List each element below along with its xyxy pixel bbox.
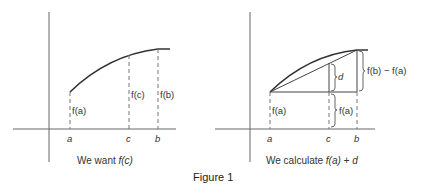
figure-caption: Figure 1 [193, 171, 233, 183]
left-tick-a: a [67, 133, 72, 144]
left-label-fb: f(b) [160, 89, 174, 100]
right-tick-b: b [354, 133, 359, 144]
left-label-fa: f(a) [72, 105, 86, 116]
left-label-fc: f(c) [131, 89, 145, 100]
left-tick-b: b [155, 133, 160, 144]
label-fb-minus-fa: f(b) − f(a) [367, 65, 406, 76]
right-panel: d f(a) f(a) f(b) − f(a) a c b We calcula… [215, 12, 406, 166]
left-caption: We want f(c) [77, 155, 133, 166]
right-caption: We calculate f(a) + d [266, 155, 358, 166]
brace-diff-icon [359, 51, 365, 91]
figure-canvas: f(a) f(c) f(b) a c b We want f(c) d f(a)… [0, 0, 431, 188]
right-label-fa-right: f(a) [339, 105, 353, 116]
right-tick-a: a [267, 133, 272, 144]
right-label-fa-left: f(a) [272, 105, 286, 116]
chord [270, 50, 357, 92]
right-tick-c: c [326, 133, 331, 144]
left-curve [70, 49, 170, 92]
left-panel: f(a) f(c) f(b) a c b We want f(c) [13, 12, 176, 166]
label-d: d [338, 71, 344, 82]
right-curve [270, 50, 368, 92]
brace-fa-icon [331, 94, 337, 127]
brace-d-icon [331, 64, 337, 91]
left-tick-c: c [126, 133, 131, 144]
